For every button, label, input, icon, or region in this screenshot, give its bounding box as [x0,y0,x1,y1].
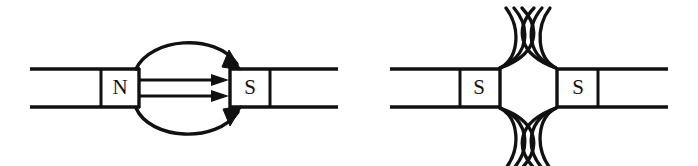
pole-label-south-repel-right: S [572,75,584,99]
magnet-diagrams-svg: N S [0,0,698,166]
pole-label-south-left-diagram: S [244,75,256,99]
figure-background [0,0,698,166]
pole-label-north: N [112,75,127,99]
magnet-field-figure: N S [0,0,698,166]
pole-label-south-repel-left: S [473,75,485,99]
